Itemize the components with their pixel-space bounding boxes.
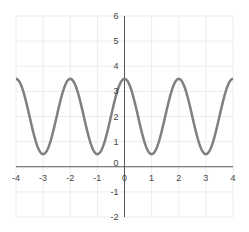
x-tick-labels: -4-3-2-101234	[12, 173, 236, 183]
x-tick-label: -4	[12, 173, 20, 183]
x-tick-label: 4	[230, 173, 235, 183]
x-tick-label: -1	[93, 173, 101, 183]
x-tick-label: 1	[149, 173, 154, 183]
y-tick-label: 2	[113, 112, 118, 122]
y-tick-label: 6	[113, 11, 118, 21]
x-tick-label: -2	[66, 173, 74, 183]
chart: -4-3-2-101234 -2-10123456	[0, 0, 249, 232]
x-tick-label: 2	[176, 173, 181, 183]
y-tick-label: 1	[113, 137, 118, 147]
y-tick-label: 0	[113, 158, 118, 168]
y-tick-label: -2	[110, 212, 118, 222]
y-tick-label: 5	[113, 36, 118, 46]
y-tick-label: 3	[113, 86, 118, 96]
x-tick-label: 0	[122, 173, 127, 183]
y-tick-label: 4	[113, 61, 118, 71]
y-tick-label: -1	[110, 187, 118, 197]
x-tick-label: 3	[203, 173, 208, 183]
x-tick-label: -3	[39, 173, 47, 183]
